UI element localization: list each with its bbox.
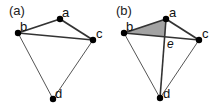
- node-c-label: c: [96, 26, 103, 41]
- node-a-label: a: [169, 5, 177, 20]
- graph-diagram: (a) a b c d (b) a b: [0, 0, 222, 109]
- panel-b: (b) a b c d e: [116, 3, 209, 101]
- node-b-label: b: [20, 19, 27, 34]
- panel-b-label: (b): [116, 3, 132, 18]
- panel-a-label: (a): [9, 3, 25, 18]
- node-d-label: d: [55, 86, 62, 101]
- node-d-label: d: [163, 86, 170, 101]
- node-a-label: a: [62, 5, 70, 20]
- edge-b-d: [18, 33, 53, 99]
- edge-b-d: [124, 33, 160, 98]
- panel-a: (a) a b c d: [9, 3, 103, 102]
- intersection-e-label: e: [167, 37, 174, 51]
- node-b-label: b: [126, 19, 133, 34]
- node-c-label: c: [202, 26, 209, 41]
- edge-b-c: [18, 33, 93, 40]
